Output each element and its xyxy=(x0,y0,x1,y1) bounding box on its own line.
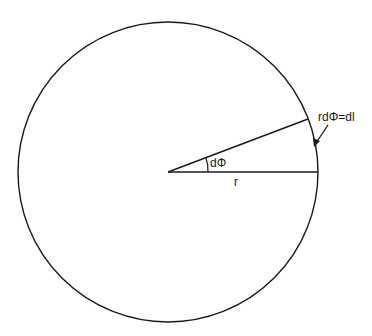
angle-label: dΦ xyxy=(210,156,226,170)
arc-length-label: rdΦ=dl xyxy=(318,110,355,124)
angle-arc xyxy=(206,158,208,172)
radius-label: r xyxy=(234,175,238,189)
radius-angled xyxy=(168,119,308,172)
arc-length-diagram: dΦ r rdΦ=dl xyxy=(0,0,372,336)
